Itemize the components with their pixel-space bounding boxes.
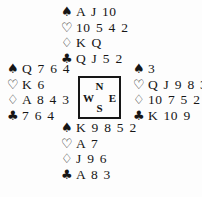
north-clubs-row: ♣ Q J 5 2 — [61, 51, 128, 67]
east-diamonds-cards: 10 7 5 2 — [148, 92, 200, 108]
spade-icon: ♠ — [133, 61, 148, 77]
heart-icon: ♡ — [7, 77, 22, 93]
heart-icon: ♡ — [61, 20, 76, 36]
heart-icon: ♡ — [133, 77, 148, 93]
south-hand: ♠ K 9 8 5 2 ♡ A 7 ♢ J 9 6 ♣ A 8 3 — [61, 120, 137, 182]
east-clubs-row: ♣ K 10 9 — [133, 108, 202, 124]
diamond-icon: ♢ — [7, 92, 22, 108]
east-hearts-cards: Q J 9 8 3 — [148, 77, 202, 93]
north-diamonds-cards: K Q — [76, 35, 102, 51]
east-spades-cards: 3 — [148, 61, 155, 77]
spade-icon: ♠ — [61, 4, 76, 20]
heart-icon: ♡ — [61, 136, 76, 152]
compass-west-label: W — [83, 92, 94, 103]
west-hand: ♠ Q 7 6 4 ♡ K 6 ♢ A 8 4 3 ♣ 7 6 4 — [7, 61, 70, 123]
south-spades-cards: K 9 8 5 2 — [76, 120, 137, 136]
north-hand: ♠ A J 10 ♡ 10 5 4 2 ♢ K Q ♣ Q J 5 2 — [61, 4, 128, 66]
spade-icon: ♠ — [61, 120, 76, 136]
club-icon: ♣ — [7, 108, 22, 124]
compass-box: N W E S — [78, 76, 121, 119]
club-icon: ♣ — [61, 167, 76, 183]
south-clubs-cards: A 8 3 — [76, 167, 111, 183]
west-diamonds-row: ♢ A 8 4 3 — [7, 92, 70, 108]
diamond-icon: ♢ — [61, 35, 76, 51]
north-spades-row: ♠ A J 10 — [61, 4, 128, 20]
bridge-deal-diagram: ♠ A J 10 ♡ 10 5 4 2 ♢ K Q ♣ Q J 5 2 ♠ Q … — [0, 0, 202, 197]
compass-east-label: E — [109, 92, 116, 103]
west-hearts-cards: K 6 — [22, 77, 45, 93]
south-hearts-cards: A 7 — [76, 136, 98, 152]
west-spades-cards: Q 7 6 4 — [22, 61, 70, 77]
diamond-icon: ♢ — [61, 151, 76, 167]
south-diamonds-row: ♢ J 9 6 — [61, 151, 137, 167]
north-spades-cards: A J 10 — [76, 4, 117, 20]
west-hearts-row: ♡ K 6 — [7, 77, 70, 93]
west-diamonds-cards: A 8 4 3 — [22, 92, 69, 108]
south-spades-row: ♠ K 9 8 5 2 — [61, 120, 137, 136]
diamond-icon: ♢ — [133, 92, 148, 108]
east-clubs-cards: K 10 9 — [148, 108, 191, 124]
north-diamonds-row: ♢ K Q — [61, 35, 128, 51]
south-diamonds-cards: J 9 6 — [76, 151, 107, 167]
south-hearts-row: ♡ A 7 — [61, 136, 137, 152]
north-hearts-row: ♡ 10 5 4 2 — [61, 20, 128, 36]
east-hearts-row: ♡ Q J 9 8 3 — [133, 77, 202, 93]
north-hearts-cards: 10 5 4 2 — [76, 20, 128, 36]
compass-south-label: S — [96, 103, 102, 114]
compass-north-label: N — [96, 81, 104, 92]
spade-icon: ♠ — [7, 61, 22, 77]
west-clubs-cards: 7 6 4 — [22, 108, 55, 124]
north-clubs-cards: Q J 5 2 — [76, 51, 123, 67]
west-spades-row: ♠ Q 7 6 4 — [7, 61, 70, 77]
east-diamonds-row: ♢ 10 7 5 2 — [133, 92, 202, 108]
east-spades-row: ♠ 3 — [133, 61, 202, 77]
east-hand: ♠ 3 ♡ Q J 9 8 3 ♢ 10 7 5 2 ♣ K 10 9 — [133, 61, 202, 123]
south-clubs-row: ♣ A 8 3 — [61, 167, 137, 183]
